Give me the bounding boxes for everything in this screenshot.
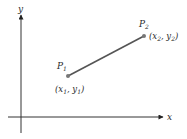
point-p2-index: 2 [144, 23, 149, 30]
point-p2 [142, 34, 146, 38]
x-axis-label: x [167, 112, 172, 122]
point-p1-index: 1 [63, 65, 67, 72]
point-p2-coords: (x2, y2) [149, 31, 178, 42]
point-p1-coords: (x1, y1) [55, 84, 84, 95]
point-p1-label: P1 [56, 61, 67, 72]
p2-paren-close: ) [174, 31, 178, 41]
p1-paren-close: ) [80, 84, 84, 94]
point-p2-label: P2 [138, 19, 149, 30]
diagram-canvas: y x P1 (x1, y1) P2 (x2, y2) [0, 0, 187, 139]
segment-p1-p2 [68, 36, 144, 76]
y-axis-label: y [17, 4, 24, 14]
point-p1 [66, 74, 70, 78]
